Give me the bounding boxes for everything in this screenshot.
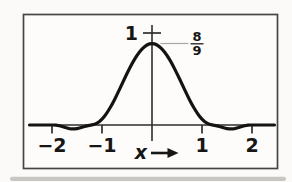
x-tick-label: −2 <box>37 134 66 156</box>
peak-fraction-denominator: 9 <box>192 43 201 58</box>
y-tick-label-1: 1 <box>125 22 138 44</box>
figure-plot: 1 −2−112 8 9 x <box>0 0 292 182</box>
plot-svg: 1 −2−112 8 9 x <box>0 0 292 182</box>
x-tick-label: −1 <box>87 134 116 156</box>
x-tick-label: 2 <box>245 134 258 156</box>
scan-shadow <box>10 177 286 181</box>
peak-fraction-numerator: 8 <box>192 29 201 44</box>
x-tick-label: 1 <box>195 134 208 156</box>
x-axis-label: x <box>134 141 148 163</box>
